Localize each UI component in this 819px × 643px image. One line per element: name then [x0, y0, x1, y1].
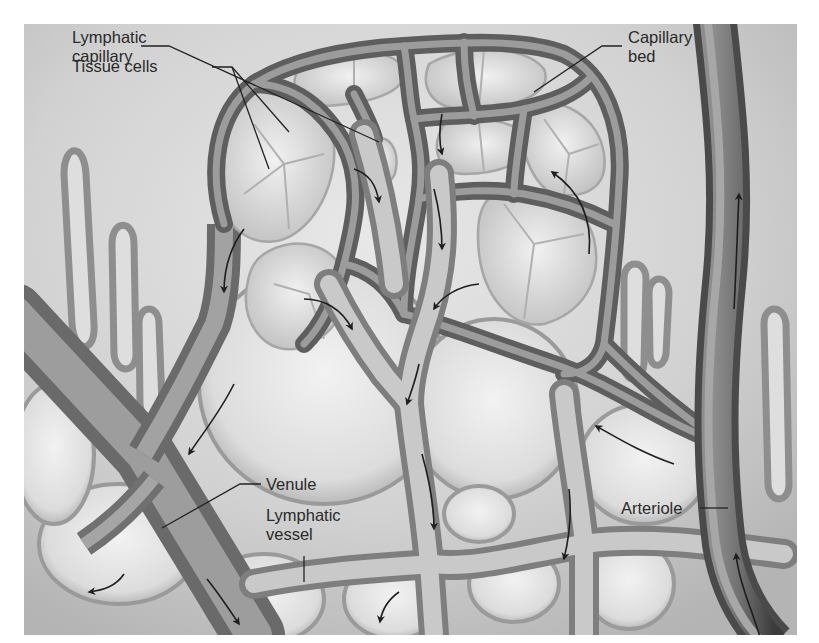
illustration-artwork — [24, 24, 797, 635]
label-lymphatic-vessel-line1: Lymphatic — [266, 506, 341, 525]
label-capillary-bed: Capillary bed — [628, 28, 692, 66]
label-lymphatic-capillary-line1: Lymphatic — [72, 28, 147, 47]
label-lymphatic-vessel: Lymphatic vessel — [266, 506, 341, 544]
label-lymphatic-vessel-line2: vessel — [266, 525, 341, 544]
label-arteriole: Arteriole — [621, 499, 682, 518]
label-tissue-cells: Tissue cells — [72, 57, 158, 76]
label-capillary-bed-line1: Capillary — [628, 28, 692, 47]
label-capillary-bed-line2: bed — [628, 47, 692, 66]
capillary-bed-illustration: Lymphatic capillary Tissue cells Capilla… — [24, 24, 797, 635]
label-venule: Venule — [266, 475, 316, 494]
